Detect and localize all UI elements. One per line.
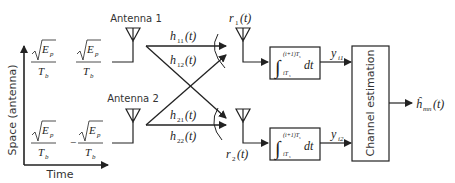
svg-text:−: − xyxy=(70,136,76,148)
pilot-symbol: E p T b xyxy=(31,121,56,161)
svg-text:22: 22 xyxy=(177,137,185,145)
channel-estimation-label: Channel estimation xyxy=(364,49,377,156)
svg-text:ĥ: ĥ xyxy=(416,97,423,111)
svg-text:2: 2 xyxy=(232,155,236,163)
svg-text:E: E xyxy=(41,124,49,136)
integrator-block-1: ∫ (i+1)T s iT s dt xyxy=(270,47,320,80)
estimated-channel-output: ĥ mn (t) xyxy=(389,97,444,113)
svg-text:p: p xyxy=(49,131,54,139)
tx-antenna-2: Antenna 2 xyxy=(107,93,159,143)
svg-text:b: b xyxy=(90,72,94,80)
channel-label-h21: h 21 (t) xyxy=(170,108,196,124)
antenna-2-label: Antenna 2 xyxy=(107,93,159,104)
mimo-channel-estimation-diagram: Space (antenna) Time E p T b E p T b E p… xyxy=(0,0,455,183)
svg-text:21: 21 xyxy=(177,116,185,124)
svg-text:E: E xyxy=(88,124,96,136)
svg-text:iT: iT xyxy=(283,151,289,157)
svg-text:T: T xyxy=(38,146,45,158)
time-axis-label: Time xyxy=(46,168,74,181)
svg-text:E: E xyxy=(41,43,49,55)
svg-text:p: p xyxy=(94,50,99,58)
svg-text:12: 12 xyxy=(177,61,185,69)
svg-text:y: y xyxy=(330,46,337,60)
channel-paths xyxy=(146,34,226,140)
svg-text:h: h xyxy=(170,29,176,43)
svg-text:h: h xyxy=(170,53,176,67)
antenna-icon xyxy=(126,109,140,122)
svg-text:mn: mn xyxy=(423,105,432,113)
rx-antenna-1: r 1 (t) xyxy=(229,11,268,62)
svg-text:(t): (t) xyxy=(185,129,196,143)
channel-label-h22: h 22 (t) xyxy=(170,129,196,145)
svg-text:dt: dt xyxy=(304,58,314,72)
svg-text:iT: iT xyxy=(283,70,289,76)
svg-text:(i+1)T: (i+1)T xyxy=(283,132,300,139)
output-y-i2: y i2 xyxy=(320,127,351,143)
antenna-icon xyxy=(236,109,250,122)
space-axis-label: Space (antenna) xyxy=(6,64,19,155)
svg-text:(t): (t) xyxy=(240,11,251,25)
tx-antenna-1: Antenna 1 xyxy=(110,13,162,62)
svg-text:1: 1 xyxy=(235,19,239,27)
svg-text:b: b xyxy=(92,153,96,161)
svg-text:(t): (t) xyxy=(433,97,444,111)
pilot-symbol-negative: − E p T b xyxy=(70,121,103,161)
integrator-block-2: ∫ (i+1)T s iT s dt xyxy=(270,128,320,161)
output-y-i1: y i1 xyxy=(320,46,351,62)
svg-text:(t): (t) xyxy=(185,29,196,43)
svg-text:i2: i2 xyxy=(338,135,344,143)
svg-text:h: h xyxy=(170,108,176,122)
svg-text:y: y xyxy=(330,127,337,141)
svg-text:p: p xyxy=(96,131,101,139)
sum-arc-1 xyxy=(214,34,225,68)
svg-text:p: p xyxy=(49,50,54,58)
svg-text:(t): (t) xyxy=(185,108,196,122)
svg-text:T: T xyxy=(38,65,45,77)
svg-text:i1: i1 xyxy=(338,54,343,62)
svg-text:(i+1)T: (i+1)T xyxy=(283,51,300,58)
svg-text:(t): (t) xyxy=(185,53,196,67)
pilot-symbol: E p T b xyxy=(76,40,101,80)
antenna-icon xyxy=(236,28,250,41)
svg-text:(t): (t) xyxy=(237,147,248,161)
channel-label-h11: h 11 (t) xyxy=(170,29,196,45)
svg-text:T: T xyxy=(83,65,90,77)
channel-estimation-block: Channel estimation xyxy=(352,46,389,161)
svg-text:T: T xyxy=(85,146,92,158)
antenna-1-label: Antenna 1 xyxy=(110,13,162,24)
svg-text:E: E xyxy=(86,43,94,55)
antenna-icon xyxy=(126,28,140,41)
svg-text:h: h xyxy=(170,129,176,143)
svg-text:b: b xyxy=(45,72,49,80)
r2-label: r xyxy=(226,147,231,161)
svg-text:11: 11 xyxy=(177,37,184,45)
pilot-symbol: E p T b xyxy=(31,40,56,80)
svg-text:b: b xyxy=(45,153,49,161)
svg-text:dt: dt xyxy=(304,139,314,153)
rx-antenna-2: r 2 (t) xyxy=(226,109,268,163)
r1-label: r xyxy=(229,11,234,25)
channel-label-h12: h 12 (t) xyxy=(170,53,196,69)
